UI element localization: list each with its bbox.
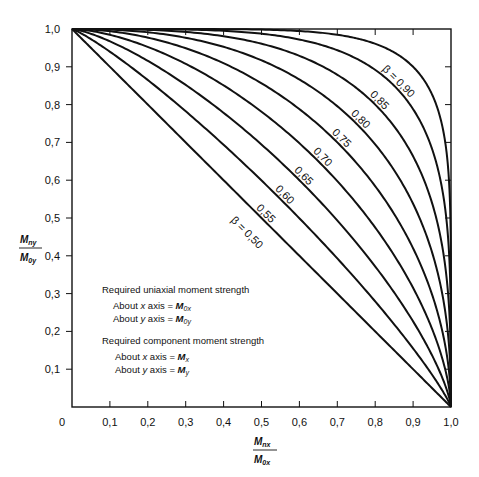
y-tick-label: 0,4 [45,250,60,262]
x-tick-label: 0,9 [405,416,420,428]
load-contour-chart: 00,10,20,30,40,50,60,70,80,91,00,10,20,3… [0,0,479,477]
y-tick-label: 0,7 [45,136,60,148]
legend-heading-uniaxial: Required uniaxial moment strength [102,284,249,295]
legend-heading-component: Required component moment strength [102,335,264,346]
legend-line-x-uniaxial: About x axis = M0x [113,300,191,312]
beta-curve-label: 0,75 [330,126,354,150]
svg-text:Mnx: Mnx [254,436,272,448]
y-tick-label: 0,9 [45,61,60,73]
annotation-legend: Required uniaxial moment strength About … [102,284,264,377]
legend-line-y-uniaxial: About y axis = M0y [113,313,191,326]
x-tick-label: 0,4 [216,416,231,428]
x-tick-label: 0 [59,416,65,428]
x-tick-label: 0,3 [178,416,193,428]
x-axis-label: Mnx M0x [253,436,277,466]
x-tick-label: 0,8 [368,416,383,428]
y-tick-label: 0,1 [45,363,60,375]
beta-curve-label: 0,80 [349,107,373,131]
x-tick-label: 0,5 [254,416,269,428]
x-tick-label: 0,2 [140,416,155,428]
y-tick-label: 0,5 [45,212,60,224]
beta-curve-label: 0,55 [254,201,278,225]
svg-text:M0y: M0y [20,252,37,265]
y-tick-label: 0,6 [45,174,60,186]
legend-line-x-component: About x axis = Mx [115,351,190,363]
y-tick-label: 1,0 [45,23,60,35]
beta-curve-label: 0,60 [273,183,297,207]
beta-curve-label: 0,70 [311,145,335,169]
beta-curve-label: 0,65 [292,164,316,188]
x-tick-label: 0,6 [292,416,307,428]
svg-text:Mny: Mny [20,234,38,247]
y-tick-label: 0,2 [45,325,60,337]
legend-line-y-component: About y axis = My [115,364,190,377]
beta-curve-labels: β = 0,500,550,600,650,700,750,800,85β = … [229,62,418,250]
y-axis-label: Mny M0y [19,234,42,265]
beta-curve-label: β = 0,50 [229,214,266,251]
x-tick-label: 0,1 [102,416,117,428]
beta-curve-label: 0,85 [368,88,392,112]
beta-curve-label: β = 0,90 [380,62,417,99]
x-tick-label: 1,0 [443,416,458,428]
y-tick-label: 0,8 [45,99,60,111]
y-tick-label: 0,3 [45,288,60,300]
svg-text:M0x: M0x [254,454,271,466]
x-tick-label: 0,7 [330,416,345,428]
